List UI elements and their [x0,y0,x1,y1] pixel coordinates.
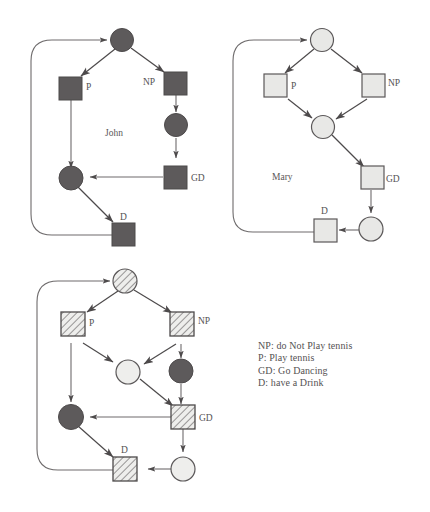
john-transition-np [164,72,187,95]
john-place-start [111,29,134,52]
combined-place-dark [59,405,84,430]
legend-line-d: D: have a Drink [258,377,426,389]
mary-edge-start-p [285,49,314,73]
mary-transition-p [264,74,287,97]
john-transition-gd [164,166,187,189]
combined-place-end [171,457,195,481]
mary-feedback-arc [233,40,322,232]
diagram-john: P NP GD D John [31,29,205,247]
john-edge-start-np [131,48,164,72]
diagram-combined: P NP GD D [37,269,213,481]
combined-transition-np [170,312,194,336]
legend: NP: do Not Play tennis P: Play tennis GD… [258,340,426,390]
mary-edge-start-np [331,49,362,73]
mary-diagram-name: Mary [272,172,293,182]
combined-label-d: D [121,445,128,455]
john-edge-place-d [78,187,113,222]
mary-place-end [359,217,383,241]
combined-place-np-dark [169,359,193,383]
combined-edge-np-place [144,344,176,364]
mary-transition-np [362,74,385,97]
legend-line-gd: GD: Go Dancing [258,365,426,377]
combined-transition-gd [171,405,195,429]
mary-label-d: D [321,206,328,216]
petri-net-figure: P NP GD D John P NP GD D [0,0,430,512]
mary-place-start [311,29,334,52]
mary-edge-p-place [288,99,312,118]
john-place-np [165,114,188,137]
combined-edge-start-p [87,291,118,312]
legend-line-p: P: Play tennis [258,352,426,364]
mary-transition-d [314,219,337,242]
john-label-np: NP [143,77,155,87]
combined-place-start [113,269,137,293]
combined-label-p: P [89,318,94,328]
john-edge-start-p [81,49,115,76]
combined-transition-p [61,312,85,336]
combined-edge-dark-d [78,426,113,457]
mary-label-p: P [291,81,296,91]
combined-edge-start-np [134,290,172,313]
john-diagram-name: John [105,128,123,138]
mary-edge-np-place [336,99,367,119]
mary-edge-place-gd [332,135,364,167]
combined-edge-place-gd [140,379,173,406]
figure-root: P NP GD D John P NP GD D [0,0,430,512]
john-label-p: P [86,82,91,92]
combined-transition-d [113,457,137,481]
combined-place-mid [116,360,140,384]
john-label-d: D [120,212,127,222]
john-label-gd: GD [191,173,205,183]
diagram-mary: P NP GD D Mary [233,29,400,243]
john-transition-p [59,77,82,100]
combined-feedback-arc [37,281,125,470]
combined-label-np: NP [198,316,210,326]
mary-place-mid [312,116,335,139]
john-transition-d [112,223,135,246]
legend-line-np: NP: do Not Play tennis [258,340,426,352]
john-place-mid [59,166,83,190]
mary-label-gd: GD [386,174,400,184]
combined-edge-p-place [83,343,113,362]
mary-transition-gd [361,166,384,189]
combined-label-gd: GD [199,413,213,423]
mary-label-np: NP [388,78,400,88]
